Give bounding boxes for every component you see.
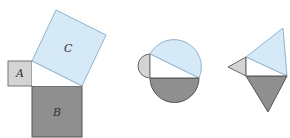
label-a: A <box>15 67 24 80</box>
semicircle-b <box>150 78 199 103</box>
label-b: B <box>52 106 61 119</box>
label-c: C <box>64 42 73 55</box>
figure-triangles <box>228 28 287 112</box>
pythagorean-diagram: A C B <box>0 0 290 138</box>
figure-squares: A C B <box>8 10 106 137</box>
triangle-b <box>246 76 287 112</box>
figure-semicircles <box>138 40 201 103</box>
semicircle-a <box>138 54 150 78</box>
triangle-a <box>228 57 246 76</box>
